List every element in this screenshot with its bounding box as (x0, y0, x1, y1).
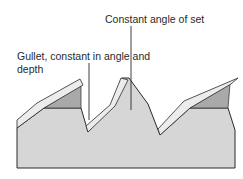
saw-teeth-diagram (0, 0, 243, 179)
label-gullet-line1: Gullet, constant in angle and (17, 50, 150, 63)
label-gullet-line2: depth (17, 63, 43, 76)
label-constant-angle-of-set: Constant angle of set (105, 13, 204, 26)
saw-blade-body (17, 78, 235, 168)
